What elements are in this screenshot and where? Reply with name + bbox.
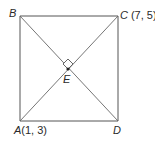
label-c-name: C <box>120 9 128 21</box>
label-c: C(7, 5) <box>120 9 155 21</box>
label-b: B <box>9 7 16 19</box>
label-a-coords: (1, 3) <box>21 124 47 136</box>
label-a-name: A <box>13 124 21 136</box>
label-a: A(1, 3) <box>13 124 47 136</box>
label-d: D <box>113 124 121 136</box>
label-e: E <box>63 73 71 85</box>
point-e <box>66 67 69 70</box>
label-c-coords: (7, 5) <box>131 9 155 21</box>
square-diagram: B C(7, 5) E A(1, 3) D <box>0 0 155 143</box>
